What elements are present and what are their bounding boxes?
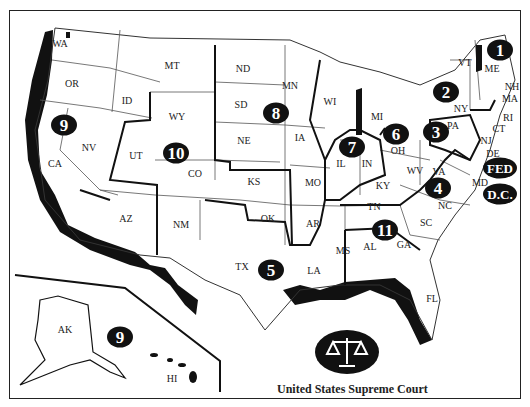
- circuit-badge-11: 11: [372, 220, 398, 241]
- state-label-or: OR: [65, 78, 79, 89]
- state-label-wi: WI: [324, 96, 337, 107]
- vermont-shading: [476, 45, 482, 72]
- state-label-co: CO: [188, 168, 202, 179]
- state-label-wv: WV: [407, 165, 424, 176]
- state-label-nc: NC: [438, 200, 452, 211]
- state-label-tn: TN: [367, 201, 380, 212]
- state-label-az: AZ: [119, 213, 132, 224]
- state-label-vt: VT: [458, 57, 471, 68]
- state-label-ne: NE: [237, 135, 250, 146]
- state-label-ri: RI: [503, 112, 513, 123]
- state-label-ga: GA: [397, 239, 411, 250]
- circuit-badge-1: 1: [487, 40, 513, 61]
- circuit-badge-fed: FED: [483, 158, 517, 179]
- circuit-badge-dc: D.C.: [483, 184, 517, 205]
- state-label-il: IL: [336, 158, 345, 169]
- state-label-id: ID: [122, 95, 133, 106]
- circuit-badge-2: 2: [433, 82, 459, 103]
- state-label-ia: IA: [295, 132, 306, 143]
- state-label-al: AL: [363, 241, 376, 252]
- state-label-ak: AK: [58, 324, 72, 335]
- supreme-court-seal: [315, 330, 379, 374]
- state-label-nd: ND: [236, 63, 250, 74]
- state-label-ny: NY: [454, 103, 468, 114]
- state-label-ut: UT: [129, 150, 142, 161]
- lake-michigan: [356, 88, 362, 135]
- circuit-badge-8: 8: [263, 103, 289, 124]
- state-label-va: VA: [432, 166, 445, 177]
- circuit-badge-6: 6: [383, 124, 409, 145]
- state-label-hi: HI: [167, 373, 178, 384]
- state-label-nm: NM: [173, 219, 189, 230]
- state-label-mo: MO: [305, 177, 321, 188]
- state-label-in: IN: [362, 158, 373, 169]
- state-label-nj: NJ: [480, 135, 491, 146]
- circuit-badge-4: 4: [425, 178, 451, 199]
- circuit-badge-9: 9: [51, 115, 77, 136]
- circuit-badge-5: 5: [258, 260, 284, 281]
- state-label-nh: NH: [505, 81, 519, 92]
- map-title: United States Supreme Court: [277, 382, 428, 397]
- circuit-badge-9: 9: [107, 327, 133, 348]
- scales-of-justice-icon: [315, 330, 379, 374]
- state-label-mn: MN: [282, 80, 298, 91]
- circuit-badge-3: 3: [423, 122, 449, 143]
- state-label-ks: KS: [248, 176, 261, 187]
- state-label-nv: NV: [82, 142, 96, 153]
- state-label-mi: MI: [371, 111, 383, 122]
- state-label-sd: SD: [235, 99, 248, 110]
- state-label-md: MD: [472, 177, 488, 188]
- state-label-ma: MA: [502, 93, 518, 104]
- state-label-la: LA: [307, 265, 320, 276]
- state-label-fl: FL: [426, 293, 438, 304]
- circuit-badge-7: 7: [339, 137, 365, 158]
- state-label-oh: OH: [391, 145, 405, 156]
- state-label-tx: TX: [235, 261, 248, 272]
- state-label-ca: CA: [48, 158, 62, 169]
- state-label-ar: AR: [306, 218, 320, 229]
- state-label-pa: PA: [447, 120, 459, 131]
- state-label-wy: WY: [169, 111, 186, 122]
- state-label-wa: WA: [52, 38, 68, 49]
- state-label-ms: MS: [336, 245, 350, 256]
- state-label-mt: MT: [165, 60, 180, 71]
- state-label-sc: SC: [420, 217, 432, 228]
- circuit-badge-10: 10: [163, 143, 189, 164]
- state-label-ok: OK: [261, 213, 275, 224]
- state-label-me: ME: [485, 63, 500, 74]
- state-label-ky: KY: [376, 180, 390, 191]
- state-label-ct: CT: [493, 123, 506, 134]
